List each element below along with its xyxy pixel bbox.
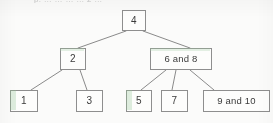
edge-n2-to-n1 bbox=[31, 70, 62, 90]
tree-node-label: 1 bbox=[21, 96, 27, 106]
edge-n68-to-n7 bbox=[172, 70, 176, 90]
tree-node-label: 6 and 8 bbox=[164, 54, 197, 64]
tree-node-n7: 7 bbox=[161, 90, 188, 112]
tree-node-n1: 1 bbox=[10, 90, 38, 112]
tree-node-n2: 2 bbox=[60, 48, 86, 70]
tree-diagram-figure: p. … … … … 2 … 426 and 813579 and 10 bbox=[0, 0, 273, 123]
tree-node-n910: 9 and 10 bbox=[203, 90, 270, 112]
tree-node-n3: 3 bbox=[76, 90, 103, 112]
edge-root-to-n2 bbox=[78, 31, 126, 48]
tree-node-root: 4 bbox=[122, 10, 146, 31]
tree-node-label: 3 bbox=[87, 96, 93, 106]
tree-node-label: 5 bbox=[136, 96, 142, 106]
tree-node-label: 4 bbox=[131, 16, 137, 26]
edge-n68-to-n5 bbox=[141, 70, 166, 90]
tree-node-n5: 5 bbox=[126, 90, 152, 112]
tree-node-label: 2 bbox=[70, 54, 76, 64]
edge-n68-to-n910 bbox=[190, 70, 214, 90]
tree-node-label: 9 and 10 bbox=[217, 96, 256, 106]
edge-n2-to-n3 bbox=[80, 70, 87, 90]
tree-node-n68: 6 and 8 bbox=[150, 48, 212, 70]
tree-node-label: 7 bbox=[172, 96, 178, 106]
edge-root-to-n68 bbox=[143, 31, 190, 48]
